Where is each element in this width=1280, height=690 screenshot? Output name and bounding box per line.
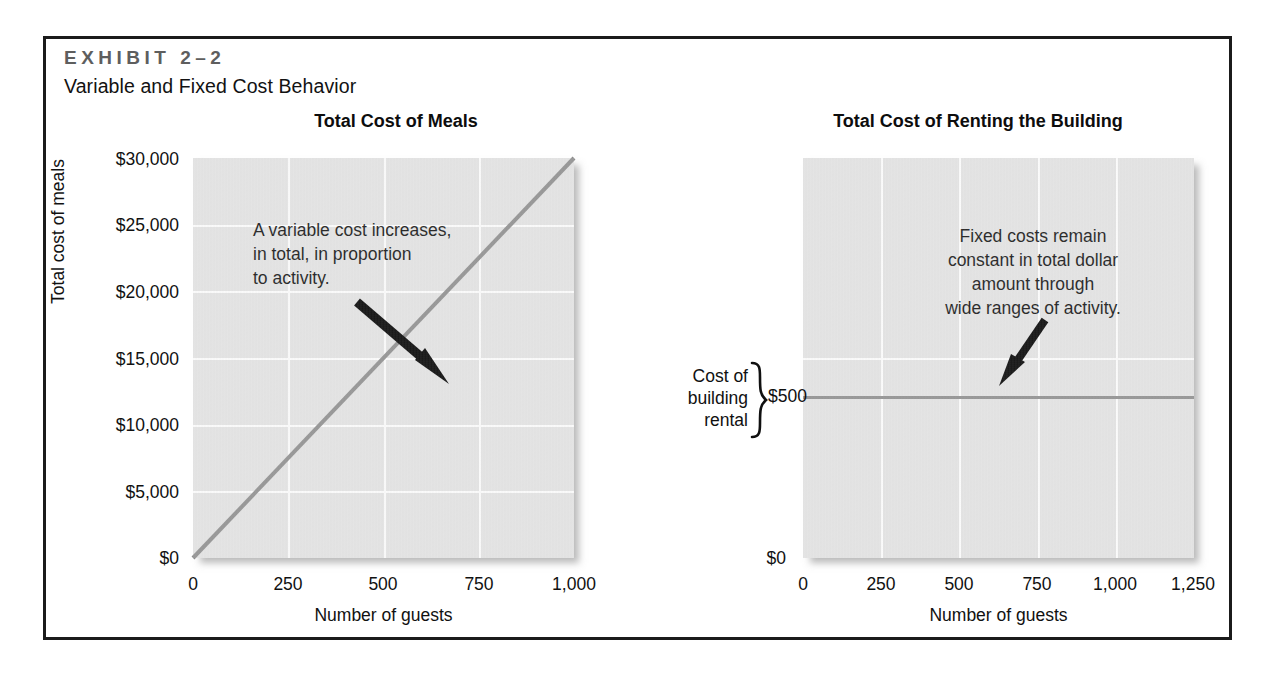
ytick-label-0: $0 — [21, 548, 179, 569]
plot-area-building-rental: Fixed costs remain constant in total dol… — [803, 158, 1194, 558]
yaxis-title-meals: Total cost of meals — [48, 102, 69, 362]
xtick-label-right-250: 250 — [841, 574, 921, 595]
exhibit-label: EXHIBIT 2–2 — [64, 47, 225, 69]
annotation-line: Fixed costs remain — [913, 224, 1153, 248]
xtick-label-500: 500 — [343, 574, 423, 595]
ytick-label-20000: $20,000 — [21, 282, 179, 303]
ytick-label-right-0: $0 — [656, 548, 786, 569]
chart-title-total-cost-of-meals: Total Cost of Meals — [186, 111, 606, 132]
fixed-cost-annotation: Fixed costs remain constant in total dol… — [913, 224, 1153, 320]
xtick-label-right-0: 0 — [763, 574, 843, 595]
exhibit-frame: EXHIBIT 2–2 Variable and Fixed Cost Beha… — [43, 36, 1232, 640]
ytick-label-30000: $30,000 — [21, 149, 179, 170]
variable-cost-arrow-icon — [353, 298, 463, 390]
xaxis-title-building: Number of guests — [803, 605, 1194, 626]
annotation-line: to activity. — [253, 266, 451, 290]
annotation-line: constant in total dollar — [913, 248, 1153, 272]
xtick-label-right-1000: 1,000 — [1075, 574, 1155, 595]
plot-area-meals: A variable cost increases, in total, in … — [193, 158, 574, 558]
ytick-label-25000: $25,000 — [21, 215, 179, 236]
fixed-cost-series-line — [803, 396, 1194, 399]
ytick-label-5000: $5,000 — [21, 482, 179, 503]
building-rental-brace-label: Cost of building rental — [674, 365, 748, 431]
brace-label-line: rental — [674, 409, 748, 431]
building-rental-value: $500 — [768, 386, 807, 407]
variable-cost-annotation: A variable cost increases, in total, in … — [253, 218, 451, 290]
gridline-v-500 — [959, 158, 961, 558]
xaxis-title-meals: Number of guests — [193, 605, 574, 626]
chart-title-total-cost-of-renting: Total Cost of Renting the Building — [758, 111, 1198, 132]
annotation-line: A variable cost increases, — [253, 218, 451, 242]
building-rental-brace-group: Cost of building rental $500 — [674, 357, 804, 447]
brace-label-line: Cost of — [674, 365, 748, 387]
xtick-label-right-750: 750 — [997, 574, 1077, 595]
annotation-line: amount through — [913, 272, 1153, 296]
curly-brace-icon — [750, 361, 768, 439]
xtick-label-right-1250: 1,250 — [1153, 574, 1233, 595]
fixed-cost-arrow-icon — [993, 316, 1063, 392]
xtick-label-right-500: 500 — [919, 574, 999, 595]
xtick-label-250: 250 — [248, 574, 328, 595]
brace-label-line: building — [674, 387, 748, 409]
ytick-label-15000: $15,000 — [21, 349, 179, 370]
exhibit-subtitle: Variable and Fixed Cost Behavior — [64, 75, 356, 98]
annotation-line: in total, in proportion — [253, 242, 451, 266]
gridline-v-1000 — [1116, 158, 1118, 558]
ytick-label-10000: $10,000 — [21, 415, 179, 436]
xtick-label-750: 750 — [439, 574, 519, 595]
gridline-v-250 — [881, 158, 883, 558]
xtick-label-1000: 1,000 — [534, 574, 614, 595]
xtick-label-0: 0 — [153, 574, 233, 595]
